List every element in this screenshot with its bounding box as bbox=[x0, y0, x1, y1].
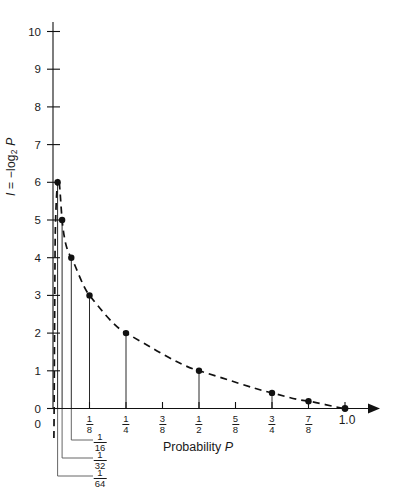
x-tick-label-1-2: 1 2 bbox=[195, 414, 202, 434]
y-tick-label: 9 bbox=[35, 63, 41, 75]
x-origin-label: 0 bbox=[35, 418, 41, 430]
y-axis-label-subscript: 2 bbox=[9, 149, 19, 154]
leader-label-1-64: 1 64 bbox=[94, 468, 107, 488]
x-axis-arrowhead bbox=[368, 404, 380, 414]
y-tick-label: 3 bbox=[35, 289, 41, 301]
fraction-denominator: 4 bbox=[268, 424, 275, 435]
fraction-denominator: 4 bbox=[122, 424, 129, 435]
information-curve bbox=[54, 178, 345, 438]
y-tick-label: 8 bbox=[35, 101, 41, 113]
y-tick-label: 6 bbox=[35, 176, 41, 188]
fraction-denominator: 2 bbox=[195, 424, 202, 435]
fraction-numerator: 5 bbox=[232, 414, 239, 424]
fraction-numerator: 1 bbox=[94, 468, 107, 478]
data-stems bbox=[58, 182, 309, 408]
figure-container: 0 1 2 3 4 5 6 7 8 9 10 bbox=[0, 0, 396, 500]
y-axis-label-symbol: I bbox=[4, 192, 18, 196]
x-axis-label-variable: P bbox=[225, 440, 233, 454]
data-point bbox=[305, 398, 311, 404]
y-tick-label: 7 bbox=[35, 139, 41, 151]
fraction-numerator: 1 bbox=[122, 414, 129, 424]
y-tick-label: 0 bbox=[35, 403, 41, 415]
data-point bbox=[59, 217, 65, 223]
x-tick-label-1-0: 1.0 bbox=[339, 414, 356, 426]
x-tick-label-3-8: 3 8 bbox=[159, 414, 166, 434]
y-axis-tick-labels: 0 1 2 3 4 5 6 7 8 9 10 bbox=[28, 26, 41, 415]
fraction-denominator: 8 bbox=[232, 424, 239, 435]
data-point bbox=[196, 368, 202, 374]
fraction-numerator: 3 bbox=[159, 414, 166, 424]
fraction-denominator: 8 bbox=[159, 424, 166, 435]
y-tick-label: 10 bbox=[28, 26, 41, 38]
fraction-numerator: 7 bbox=[305, 414, 312, 424]
x-tick-label-3-4: 3 4 bbox=[268, 414, 275, 434]
data-point bbox=[86, 292, 92, 298]
fraction-denominator: 64 bbox=[94, 478, 107, 489]
x-tick-label-5-8: 5 8 bbox=[232, 414, 239, 434]
y-axis-label: I = −log2 P bbox=[4, 56, 19, 196]
y-tick-label: 4 bbox=[35, 252, 42, 264]
y-tick-label: 1 bbox=[35, 365, 41, 377]
y-axis-label-equals: = −log bbox=[4, 154, 18, 189]
fraction-denominator: 8 bbox=[86, 424, 93, 435]
data-point bbox=[54, 179, 60, 185]
x-tick-label-1-8: 1 8 bbox=[86, 414, 93, 434]
y-tick-label: 2 bbox=[35, 327, 41, 339]
fraction-numerator: 1 bbox=[86, 414, 93, 424]
fraction-numerator: 3 bbox=[268, 414, 275, 424]
x-tick-label-7-8: 7 8 bbox=[305, 414, 312, 434]
fraction-denominator: 8 bbox=[305, 424, 312, 435]
y-axis-label-variable: P bbox=[4, 138, 18, 146]
data-point bbox=[68, 255, 74, 261]
x-axis-label: Probability P bbox=[0, 440, 396, 454]
data-points bbox=[54, 179, 348, 412]
x-tick-label-text: 1.0 bbox=[339, 413, 356, 427]
data-point bbox=[342, 405, 349, 412]
x-tick-label-1-4: 1 4 bbox=[122, 414, 129, 434]
data-point bbox=[123, 330, 129, 336]
y-tick-label: 5 bbox=[35, 214, 41, 226]
fraction-numerator: 1 bbox=[195, 414, 202, 424]
x-axis-label-text: Probability bbox=[163, 440, 221, 454]
data-point bbox=[269, 390, 275, 396]
